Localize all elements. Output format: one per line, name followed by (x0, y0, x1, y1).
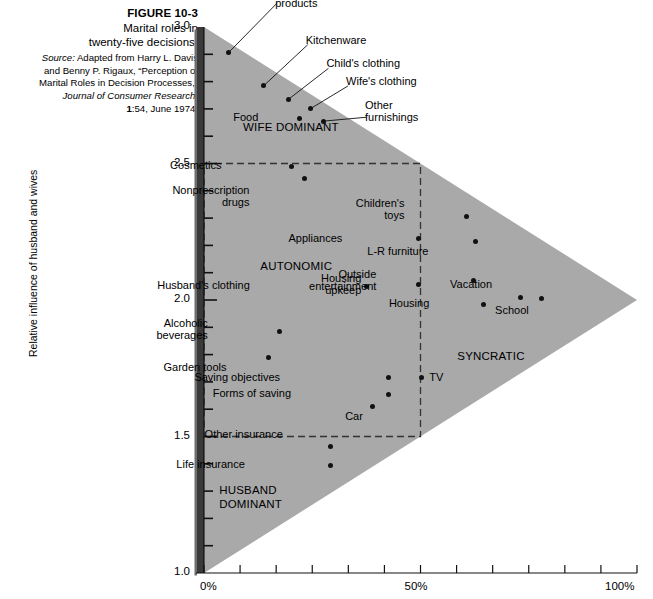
data-point (416, 236, 421, 241)
y-axis (195, 27, 205, 576)
data-point-label: Nonprescription drugs (172, 184, 249, 208)
region-label: SYNCRATIC (457, 350, 524, 364)
data-point-label: Car (345, 410, 363, 422)
x-tick-label: 100% (605, 580, 634, 592)
figure-container: FIGURE 10-3 Marital roles in twenty-five… (0, 0, 653, 599)
data-point-label: Alcoholic beverages (156, 317, 207, 341)
region-label: HUSBAND DOMINANT (219, 484, 282, 511)
data-point (266, 355, 271, 360)
data-point (289, 164, 294, 169)
data-point (386, 375, 391, 380)
data-point (386, 392, 391, 397)
y-axis-label: Relative influence of husband and wives (27, 187, 39, 357)
data-point (328, 444, 333, 449)
data-point-label: Child's clothing (326, 57, 400, 69)
data-point-label: Saving objectives (194, 371, 280, 383)
data-point-label: Vacation (450, 278, 492, 290)
data-point-label: Forms of saving (213, 387, 291, 399)
data-point-label: Life insurance (176, 458, 245, 470)
data-point-label: Housing (389, 297, 429, 309)
data-point-label: Cleaning products (275, 0, 318, 9)
scatter-plot: Relative influence of husband and wives … (0, 0, 653, 599)
data-point-label: TV (429, 371, 443, 383)
data-point-label: Husband's clothing (157, 279, 250, 291)
data-point-label: L-R furniture (367, 245, 428, 257)
data-point-label: Other insurance (205, 428, 283, 440)
x-axis (196, 565, 637, 573)
data-point (302, 176, 307, 181)
data-point-label: Kitchenware (306, 34, 367, 46)
y-tick-label: 2.0 (156, 292, 190, 304)
data-point-label: Children's toys (356, 197, 405, 221)
y-tick-label: 1.5 (156, 429, 190, 441)
data-point-label: School (495, 304, 529, 316)
x-tick-label: 0% (200, 580, 217, 592)
data-point (518, 295, 523, 300)
data-point-label: Cosmetics (170, 159, 221, 171)
x-tick-label: 50% (405, 580, 428, 592)
data-point (321, 119, 326, 124)
data-point (297, 116, 302, 121)
data-point-label: Outside entertainment (309, 268, 376, 292)
data-point-label: Food (233, 111, 258, 123)
data-point (481, 302, 486, 307)
data-point (473, 239, 478, 244)
data-point-label: Appliances (289, 232, 343, 244)
data-point-label: Other furnishings (365, 99, 418, 123)
y-tick-label: 3.0 (156, 19, 190, 31)
data-point-label: Wife's clothing (346, 75, 417, 87)
plot-canvas (0, 0, 653, 599)
data-point (286, 97, 291, 102)
y-tick-label: 1.0 (156, 565, 190, 577)
